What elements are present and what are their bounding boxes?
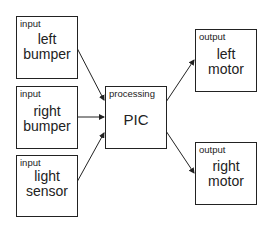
box-tag: processing (109, 88, 155, 99)
input-light-sensor-box: input light sensor (16, 155, 78, 217)
box-tag: input (20, 18, 41, 29)
input-left-bumper-box: input left bumper (16, 16, 78, 79)
box-label: right motor (196, 159, 256, 189)
box-tag: output (199, 144, 225, 155)
output-left-motor-box: output left motor (195, 29, 257, 92)
arrow-pic-to-left-motor (166, 60, 194, 102)
input-right-bumper-box: input right bumper (16, 86, 78, 149)
box-label: right bumper (17, 104, 77, 134)
box-tag: output (199, 31, 225, 42)
box-tag: input (20, 157, 41, 168)
processing-pic-box: processing PIC (105, 86, 167, 149)
box-tag: input (20, 88, 41, 99)
box-label: light sensor (17, 169, 77, 199)
arrow-light-sensor-to-pic (77, 133, 104, 182)
arrow-left-bumper-to-pic (77, 48, 104, 100)
output-right-motor-box: output right motor (195, 142, 257, 205)
box-label: left bumper (17, 32, 77, 62)
box-label: PIC (106, 112, 166, 127)
arrow-pic-to-right-motor (166, 131, 194, 173)
box-label: left motor (196, 47, 256, 77)
